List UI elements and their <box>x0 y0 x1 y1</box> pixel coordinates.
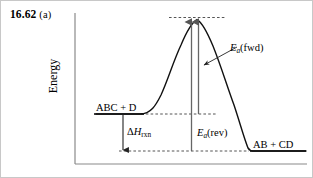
ea-forward-subscript: a <box>236 46 240 55</box>
products-label: AB + CD <box>253 140 293 151</box>
reactants-label: ABC + D <box>96 103 136 114</box>
delta-h-label: ΔHrxn <box>127 127 151 138</box>
ea-reverse-label: Ea(rev) <box>197 128 227 139</box>
ea-forward-suffix: (fwd) <box>240 42 263 53</box>
ea-reverse-suffix: (rev) <box>207 127 227 138</box>
figure-container: 16.62 (a) Energy <box>0 0 313 178</box>
energy-diagram-plot <box>1 1 313 178</box>
ea-reverse-subscript: a <box>203 131 207 140</box>
delta-symbol: Δ <box>127 126 134 137</box>
ea-forward-label: Ea(fwd) <box>230 43 263 54</box>
delta-h-subscript: rxn <box>141 130 151 139</box>
